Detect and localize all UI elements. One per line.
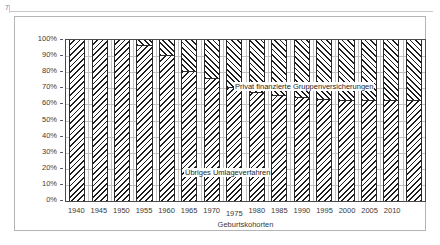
x-axis-tick-label: 1990 — [294, 206, 311, 218]
bar-slot — [358, 40, 380, 201]
x-axis-tick-label: 2005 — [361, 206, 378, 218]
bar-segment-private-gruppenversicherungen — [205, 40, 219, 79]
y-axis-tick — [60, 39, 63, 40]
x-axis-tick-slot: 1940 — [65, 206, 88, 218]
bar-slot — [403, 40, 425, 201]
x-axis-tick-labels: 1940194519501955196019651970197519801985… — [65, 206, 426, 218]
x-axis-tick-slot: 2000 — [336, 206, 359, 218]
bar-slot — [313, 40, 335, 201]
y-axis-tick — [60, 200, 63, 201]
y-axis-tick-label: 60% — [42, 99, 57, 107]
bar-slot — [111, 40, 133, 201]
y-axis-tick-label: 90% — [42, 51, 57, 59]
bar-segment-uebriges-umlageverfahren — [115, 40, 129, 201]
bar-segment-private-gruppenversicherungen — [362, 40, 376, 101]
y-axis-tick-label: 20% — [42, 164, 57, 172]
bar-slot — [66, 40, 88, 201]
y-axis-tick — [60, 103, 63, 104]
stacked-bar — [383, 40, 399, 201]
bar-segment-uebriges-umlageverfahren — [250, 93, 264, 201]
x-axis-tick-label: 1955 — [136, 206, 153, 218]
x-axis-tick-label: 1970 — [203, 206, 220, 218]
x-axis-tick-slot: 1965 — [178, 206, 201, 218]
x-axis-tick-slot: 2005 — [358, 206, 381, 218]
bar-segment-private-gruppenversicherungen — [339, 40, 353, 101]
x-axis-tick-slot — [403, 206, 426, 218]
bar-segment-uebriges-umlageverfahren — [182, 72, 196, 201]
y-axis-tick — [60, 152, 63, 153]
stacked-bar — [159, 40, 175, 201]
y-axis-tick-label: 10% — [42, 180, 57, 188]
x-axis-tick-label: 1995 — [316, 206, 333, 218]
x-axis-tick-label: 1985 — [271, 206, 288, 218]
page-rule-horizontal — [9, 11, 433, 12]
bar-segment-private-gruppenversicherungen — [160, 40, 174, 56]
bar-segment-uebriges-umlageverfahren — [295, 98, 309, 201]
y-axis-tick — [60, 168, 63, 169]
stacked-bar — [271, 40, 287, 201]
x-axis-tick-label: 1945 — [91, 206, 108, 218]
stacked-bar — [69, 40, 85, 201]
x-axis-tick-label: 2010 — [384, 206, 401, 218]
y-axis-tick — [60, 136, 63, 137]
chart-screenshot: 7 100%90%80%70%60%50%40%30%20%10%0% Priv… — [0, 0, 440, 245]
x-axis-tick-slot: 1950 — [110, 206, 133, 218]
bar-segment-private-gruppenversicherungen — [384, 40, 398, 101]
stacked-bar — [114, 40, 130, 201]
bar-slot — [88, 40, 110, 201]
annotation-uebriges-umlageverfahren: Übriges Umlageverfahren — [184, 168, 271, 177]
bar-segment-uebriges-umlageverfahren — [384, 101, 398, 201]
y-axis-tick — [60, 87, 63, 88]
y-axis-tick-label: 0% — [46, 196, 57, 204]
stacked-bar — [136, 40, 152, 201]
bar-segment-uebriges-umlageverfahren — [227, 88, 241, 201]
bar-slot — [156, 40, 178, 201]
bar-slot — [380, 40, 402, 201]
y-axis-tick — [60, 71, 63, 72]
x-axis-tick-slot: 1945 — [88, 206, 111, 218]
bar-segment-uebriges-umlageverfahren — [407, 101, 421, 201]
annotation-private-gruppenversicherungen: Privat finanzierte Gruppenversicherungen — [234, 82, 374, 91]
y-axis-tick — [60, 120, 63, 121]
bar-segment-uebriges-umlageverfahren — [339, 101, 353, 201]
bar-slot — [335, 40, 357, 201]
bar-slot — [133, 40, 155, 201]
x-axis-tick-label: 2000 — [339, 206, 356, 218]
bar-segment-uebriges-umlageverfahren — [205, 79, 219, 201]
stacked-bar — [338, 40, 354, 201]
x-axis-tick-label: 1965 — [181, 206, 198, 218]
x-axis-tick-slot: 1985 — [268, 206, 291, 218]
y-axis-tick-label: 70% — [42, 83, 57, 91]
x-axis-title: Geburtskohorten — [65, 220, 426, 229]
bar-segment-private-gruppenversicherungen — [182, 40, 196, 72]
y-axis-tick — [60, 184, 63, 185]
bar-segment-uebriges-umlageverfahren — [160, 56, 174, 201]
y-axis-tick-label: 80% — [42, 67, 57, 75]
stacked-bar — [294, 40, 310, 201]
stacked-bar — [316, 40, 332, 201]
x-axis-tick-slot: 1980 — [246, 206, 269, 218]
x-axis-tick-label: 1960 — [158, 206, 175, 218]
bar-segment-private-gruppenversicherungen — [407, 40, 421, 101]
y-axis: 100%90%80%70%60%50%40%30%20%10%0% — [29, 39, 63, 202]
bar-segment-uebriges-umlageverfahren — [362, 101, 376, 201]
x-axis-tick-slot: 2010 — [381, 206, 404, 218]
bar-segment-uebriges-umlageverfahren — [272, 96, 286, 201]
x-axis-tick-slot: 1975 — [223, 206, 246, 218]
x-axis-tick-label: 1950 — [113, 206, 130, 218]
bar-segment-uebriges-umlageverfahren — [137, 46, 151, 201]
y-axis-tick-label: 30% — [42, 148, 57, 156]
x-axis-tick-slot: 1970 — [200, 206, 223, 218]
bar-segment-uebriges-umlageverfahren — [93, 40, 107, 201]
x-axis-tick-label: 1980 — [248, 206, 265, 218]
bar-segment-uebriges-umlageverfahren — [317, 100, 331, 201]
x-axis-tick-label: 1940 — [68, 206, 85, 218]
stacked-bar — [406, 40, 422, 201]
chart-frame: 100%90%80%70%60%50%40%30%20%10%0% Privat… — [14, 16, 426, 231]
x-axis-tick-slot: 1960 — [155, 206, 178, 218]
x-axis-tick-slot: 1990 — [291, 206, 314, 218]
stacked-bar — [361, 40, 377, 201]
y-axis-tick-label: 100% — [38, 35, 57, 43]
y-axis-tick-label: 40% — [42, 132, 57, 140]
bar-slot — [290, 40, 312, 201]
